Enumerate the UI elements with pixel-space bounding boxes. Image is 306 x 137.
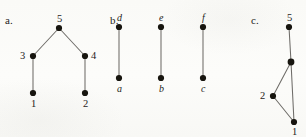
graph-vertex-5 [56, 25, 62, 31]
graph-edge [273, 96, 294, 122]
graph-edge [33, 28, 59, 56]
vertex-label-4: 4 [91, 51, 96, 62]
vertex-label-a: a [117, 84, 122, 94]
panel-b-graph [116, 24, 206, 81]
graph-edge [59, 28, 85, 56]
graph-vertex-3 [30, 53, 36, 59]
figure-root: a.53412b.daebfcc.521 [0, 0, 306, 137]
vertex-label-1: 1 [292, 127, 297, 137]
vertex-label-f: f [202, 13, 205, 23]
graph-vertex-e [158, 24, 164, 30]
graph-vertex-2 [270, 93, 276, 99]
vertex-label-e: e [159, 13, 163, 23]
panel-marker-a: a. [5, 14, 13, 26]
graph-vertex-5 [286, 24, 292, 30]
graph-edge [291, 62, 294, 122]
vertex-label-d: d [117, 13, 122, 23]
graph-vertex-c [200, 75, 206, 81]
vertex-label-c: c [201, 84, 205, 94]
graph-edge [289, 27, 291, 62]
panel-marker-c: c. [251, 14, 259, 26]
vertex-label-5: 5 [57, 14, 62, 25]
graph-vertex-1 [291, 119, 297, 125]
vertex-label-1: 1 [31, 99, 36, 110]
graph-edge [273, 62, 291, 96]
graph-vertex-4 [82, 53, 88, 59]
graph-vertex-f [200, 24, 206, 30]
vertex-label-2: 2 [83, 99, 88, 110]
graph-vertex-1 [30, 90, 36, 96]
graph-vertex [288, 59, 295, 66]
vertex-label-2: 2 [260, 91, 265, 102]
vertex-label-3: 3 [20, 51, 25, 62]
graph-vertex-2 [82, 90, 88, 96]
hasse-diagram-canvas [0, 0, 306, 137]
vertex-label-b: b [159, 84, 164, 94]
graph-vertex-b [158, 75, 164, 81]
panel-c-graph [270, 24, 297, 125]
panel-a-graph [30, 25, 88, 96]
graph-vertex-a [116, 75, 122, 81]
vertex-label-5: 5 [287, 13, 292, 24]
